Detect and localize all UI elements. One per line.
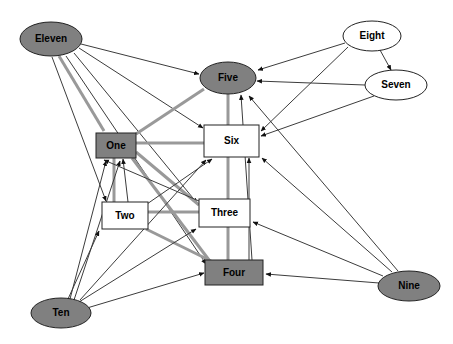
edge-seven-to-five — [257, 81, 365, 85]
node-eight[interactable]: Eight — [343, 21, 401, 51]
edge-two-to-four — [146, 229, 211, 261]
node-shape-eight — [343, 21, 401, 51]
node-shape-five — [200, 62, 256, 94]
node-two[interactable]: Two — [102, 202, 148, 229]
node-ten[interactable]: Ten — [31, 298, 91, 328]
node-shape-six — [204, 125, 259, 157]
edge-two-to-six — [147, 159, 212, 204]
node-shape-ten — [31, 298, 91, 328]
node-eleven[interactable]: Eleven — [20, 22, 82, 56]
node-four[interactable]: Four — [205, 260, 263, 285]
graph-canvas: ElevenEightFiveSevenOneSixTwoThreeFourTe… — [0, 0, 453, 344]
node-shape-two — [102, 202, 148, 229]
edge-eight-to-seven — [380, 50, 391, 70]
graph-diagram: ElevenEightFiveSevenOneSixTwoThreeFourTe… — [0, 0, 453, 344]
node-six[interactable]: Six — [204, 125, 259, 157]
node-shape-nine — [378, 271, 440, 301]
node-nine[interactable]: Nine — [378, 271, 440, 301]
edge-ten-to-one — [74, 161, 120, 300]
node-shape-four — [205, 260, 263, 285]
edge-eleven-to-six — [79, 48, 203, 128]
node-shape-three — [199, 199, 250, 227]
node-layer: ElevenEightFiveSevenOneSixTwoThreeFourTe… — [20, 21, 440, 328]
edge-eight-to-six — [261, 47, 348, 131]
node-seven[interactable]: Seven — [365, 70, 427, 100]
edge-ten-to-two — [68, 231, 99, 299]
edge-eleven-to-two — [52, 57, 106, 201]
node-shape-one — [96, 133, 136, 158]
edge-nine-to-six — [262, 158, 392, 272]
node-shape-seven — [365, 70, 427, 100]
edge-eight-to-five — [258, 43, 345, 70]
edge-five-to-one — [136, 89, 204, 134]
edge-two-to-one — [123, 159, 128, 202]
node-five[interactable]: Five — [200, 62, 256, 94]
node-shape-eleven — [20, 22, 82, 56]
edge-nine-to-five — [249, 96, 398, 271]
edge-ten-to-three — [79, 229, 196, 302]
node-three[interactable]: Three — [199, 199, 250, 227]
edge-ten-to-one — [70, 161, 106, 299]
node-one[interactable]: One — [96, 133, 136, 158]
edge-eleven-to-three — [74, 53, 197, 203]
edge-ten-to-four — [87, 273, 204, 308]
edge-eleven-to-five — [81, 44, 199, 74]
edge-four-to-five — [241, 95, 252, 260]
edge-nine-to-four — [266, 274, 379, 283]
